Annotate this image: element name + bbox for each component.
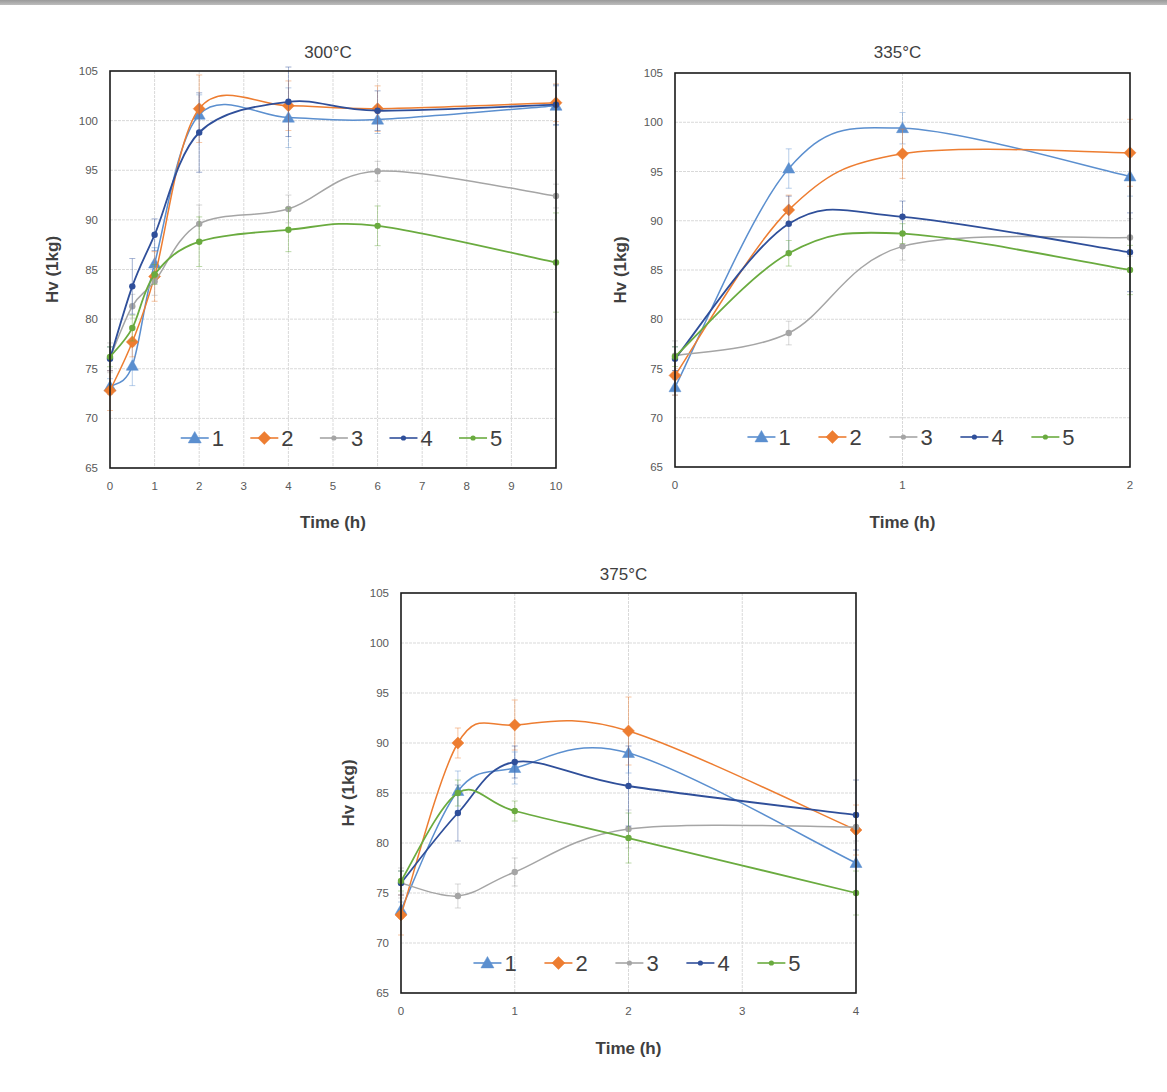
data-point-marker [625, 783, 631, 789]
figure-canvas: 300°C65707580859095100105012345678910Tim… [0, 0, 1167, 1092]
data-point-marker [126, 360, 138, 371]
y-axis-title: Hv (1kg) [339, 759, 358, 826]
legend-marker-icon [627, 960, 632, 965]
data-point-marker [455, 893, 461, 899]
data-point-marker [786, 250, 792, 256]
data-point-marker [786, 330, 792, 336]
legend-item-4: 4 [389, 426, 432, 451]
x-tick-label: 7 [419, 480, 425, 492]
y-tick-label: 85 [650, 264, 663, 276]
legend-label: 4 [991, 425, 1003, 450]
x-tick-label: 2 [625, 1005, 631, 1017]
legend-label: 2 [849, 425, 861, 450]
gridlines [110, 71, 556, 468]
legend: 12345 [747, 425, 1074, 450]
legend-item-1: 1 [473, 951, 516, 976]
legend: 12345 [473, 951, 800, 976]
data-point-marker [509, 719, 521, 731]
legend-label: 2 [281, 426, 293, 451]
legend-item-5: 5 [1031, 425, 1074, 450]
x-axis-title: Time (h) [596, 1039, 662, 1058]
chart-title: 300°C [304, 43, 351, 62]
y-tick-label: 75 [85, 363, 98, 375]
legend-label: 1 [504, 951, 516, 976]
y-tick-label: 70 [85, 412, 98, 424]
legend-marker-icon [481, 957, 494, 968]
y-tick-label: 85 [376, 787, 389, 799]
legend-label: 1 [778, 425, 790, 450]
y-tick-label: 70 [376, 937, 389, 949]
y-tick-label: 65 [650, 461, 663, 473]
x-tick-label: 2 [1127, 479, 1133, 491]
y-tick-label: 65 [376, 987, 389, 999]
data-point-marker [512, 869, 518, 875]
legend-marker-icon [258, 432, 271, 445]
y-tick-label: 100 [79, 115, 98, 127]
legend-label: 5 [1062, 425, 1074, 450]
data-point-marker [129, 325, 135, 331]
legend-item-5: 5 [757, 951, 800, 976]
chart-300c: 300°C65707580859095100105012345678910Tim… [43, 43, 562, 532]
y-tick-label: 105 [370, 587, 389, 599]
data-point-marker [512, 808, 518, 814]
data-point-marker [897, 148, 909, 160]
x-tick-label: 1 [899, 479, 905, 491]
y-tick-label: 80 [85, 313, 98, 325]
x-tick-label: 10 [550, 480, 563, 492]
y-tick-label: 70 [650, 412, 663, 424]
legend-item-2: 2 [818, 425, 861, 450]
legend-marker-icon [1043, 434, 1048, 439]
x-tick-label: 6 [374, 480, 380, 492]
legend-item-3: 3 [615, 951, 658, 976]
data-point-marker [455, 810, 461, 816]
x-tick-label: 0 [672, 479, 678, 491]
y-tick-label: 105 [644, 67, 663, 79]
y-axis-title: Hv (1kg) [611, 236, 630, 303]
x-tick-label: 0 [398, 1005, 404, 1017]
y-tick-label: 95 [85, 164, 98, 176]
data-point-marker [374, 108, 380, 114]
x-tick-label: 3 [739, 1005, 745, 1017]
y-tick-label: 90 [650, 215, 663, 227]
legend-marker-icon [972, 434, 977, 439]
data-point-marker [151, 271, 157, 277]
legend-marker-icon [826, 431, 839, 444]
legend-marker-icon [470, 435, 475, 440]
legend-label: 2 [575, 951, 587, 976]
legend-label: 4 [717, 951, 729, 976]
x-tick-label: 4 [285, 480, 292, 492]
data-point-marker [452, 737, 464, 749]
y-tick-label: 100 [370, 637, 389, 649]
y-axis-title: Hv (1kg) [43, 236, 62, 303]
y-tick-label: 65 [85, 462, 98, 474]
x-axis-title: Time (h) [870, 513, 936, 532]
data-point-marker [374, 168, 380, 174]
x-tick-label: 3 [241, 480, 247, 492]
data-point-marker [786, 221, 792, 227]
x-tick-label: 2 [196, 480, 202, 492]
y-tick-label: 95 [650, 166, 663, 178]
legend-item-1: 1 [181, 426, 224, 451]
data-point-marker [151, 232, 157, 238]
data-point-marker [196, 239, 202, 245]
chart-title: 335°C [874, 43, 921, 62]
legend-marker-icon [698, 960, 703, 965]
y-tick-label: 95 [376, 687, 389, 699]
y-tick-label: 85 [85, 264, 98, 276]
legend-label: 5 [788, 951, 800, 976]
series-group [104, 67, 562, 410]
data-point-marker [285, 227, 291, 233]
legend-marker-icon [552, 957, 565, 970]
x-tick-label: 8 [464, 480, 470, 492]
legend-marker-icon [755, 431, 768, 442]
data-point-marker [899, 243, 905, 249]
x-tick-label: 1 [512, 1005, 518, 1017]
y-tick-label: 75 [650, 363, 663, 375]
data-point-marker [196, 129, 202, 135]
legend-label: 1 [212, 426, 224, 451]
legend-marker-icon [769, 960, 774, 965]
x-tick-label: 1 [151, 480, 157, 492]
legend-label: 4 [420, 426, 432, 451]
legend-item-5: 5 [459, 426, 502, 451]
chart-375c: 375°C6570758085909510010501234Time (h)Hv… [339, 565, 862, 1058]
